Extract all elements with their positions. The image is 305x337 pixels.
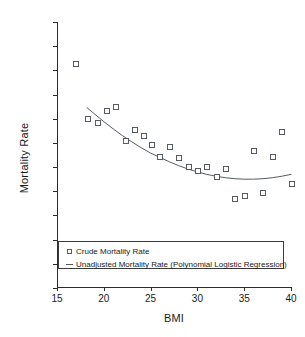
data-point (223, 166, 229, 172)
line-icon (63, 264, 76, 265)
data-point (270, 154, 276, 160)
open-square-icon (63, 249, 76, 254)
y-axis-title: Mortality Rate (18, 88, 30, 228)
data-point (167, 144, 173, 150)
data-point (260, 190, 266, 196)
data-point (95, 120, 101, 126)
data-point (149, 142, 155, 148)
data-point (85, 116, 91, 122)
data-point (195, 168, 201, 174)
data-point (186, 164, 192, 170)
data-point (141, 133, 147, 139)
scatter-chart: Mortality Rate BMI 0.600.550.500.450.400… (0, 0, 305, 337)
x-tick-label: 20 (91, 294, 117, 304)
data-point (251, 148, 257, 154)
x-axis-title: BMI (57, 312, 291, 324)
legend-label-unadjusted: Unadjusted Mortality Rate (Polynomial Lo… (76, 260, 287, 269)
x-tick (291, 287, 292, 291)
data-point (132, 127, 138, 133)
x-tick-label: 35 (231, 294, 257, 304)
data-point (279, 129, 285, 135)
data-point (289, 181, 295, 187)
x-tick-label: 40 (278, 294, 304, 304)
data-point (176, 155, 182, 161)
data-point (232, 196, 238, 202)
legend-item-unadjusted: Unadjusted Mortality Rate (Polynomial Lo… (63, 258, 279, 270)
data-point (204, 164, 210, 170)
x-tick-label: 15 (44, 294, 70, 304)
data-point (104, 108, 110, 114)
data-point (73, 61, 79, 67)
data-point (214, 174, 220, 180)
legend-item-crude: Crude Mortality Rate (63, 245, 279, 257)
x-tick-label: 25 (138, 294, 164, 304)
data-point (157, 154, 163, 160)
legend-label-crude: Crude Mortality Rate (76, 247, 149, 256)
data-point (242, 193, 248, 199)
x-tick-label: 30 (184, 294, 210, 304)
data-point (113, 104, 119, 110)
legend: Crude Mortality Rate Unadjusted Mortalit… (58, 241, 284, 269)
data-point (123, 138, 129, 144)
